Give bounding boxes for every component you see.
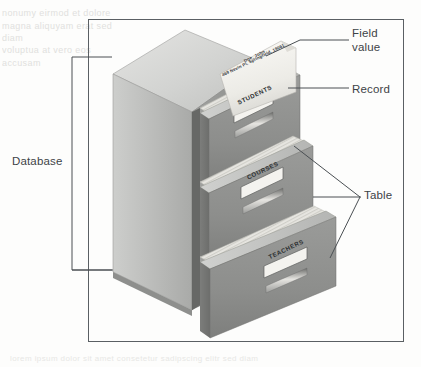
drawer-courses-side — [200, 187, 209, 262]
drawer-students-side — [200, 113, 209, 187]
diagram-canvas — [0, 0, 421, 367]
annotation-record: Record — [352, 83, 390, 97]
cabinet-left-face — [113, 74, 192, 310]
cabinet-recess-slot — [192, 108, 200, 310]
figure-root: nonumy eirmod et dolore magna aliquyam e… — [0, 0, 421, 367]
bracket-database — [72, 57, 112, 270]
annotation-field-value: Field value — [352, 27, 380, 54]
drawer-teachers-side — [200, 262, 210, 338]
annotation-table: Table — [364, 189, 392, 203]
annotation-database: Database — [12, 155, 62, 169]
